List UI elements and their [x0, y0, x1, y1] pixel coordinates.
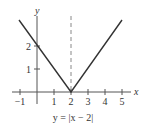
y-tick-label: 1: [26, 64, 31, 75]
y-axis-label: y: [34, 5, 40, 16]
y-tick-label: 2: [26, 41, 31, 52]
x-tick-label: 5: [120, 96, 125, 107]
x-axis-label: x: [133, 86, 139, 97]
x-tick-label: 3: [86, 96, 91, 107]
absolute-value-graph: −1 1 2 3 4 5 1 2 x y y = |x − 2|: [0, 0, 146, 130]
graph-caption: y = |x − 2|: [53, 112, 93, 123]
x-tick-label: 4: [103, 96, 108, 107]
x-tick-label: −1: [15, 96, 26, 107]
x-tick-label: 2: [69, 96, 74, 107]
x-tick-label: 1: [52, 96, 57, 107]
